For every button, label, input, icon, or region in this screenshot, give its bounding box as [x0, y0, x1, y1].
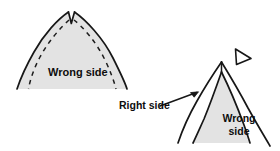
label-wrong-side-right-line1: Wrong — [222, 112, 255, 124]
label-wrong-side-left: Wrong side — [48, 66, 108, 78]
diagram-canvas: Wrong side Right side Wrong side — [0, 0, 280, 151]
label-wrong-side-right: Wrong side — [218, 112, 260, 138]
label-wrong-side-right-line2: side — [228, 125, 249, 137]
right-pointing-triangle-marker-icon — [236, 49, 252, 65]
label-right-side: Right side — [119, 99, 170, 111]
